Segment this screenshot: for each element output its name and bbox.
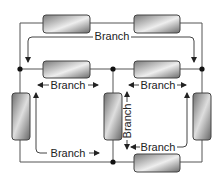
node-right (199, 66, 204, 71)
bottom-right-branch-annotation: Branch (131, 93, 187, 153)
top-branch-label: Branch (95, 30, 130, 42)
circuit-diagram: Branch Branch Branch Branch Branch Branc… (0, 0, 220, 180)
resistor-center-vertical (104, 93, 122, 140)
resistor-right-vertical (193, 93, 211, 140)
resistor-mid-right (134, 61, 180, 78)
resistor-left-vertical (12, 93, 30, 140)
bottom-right-branch-label: Branch (141, 141, 176, 153)
vertical-center-branch-label: Branch (121, 104, 133, 139)
resistor-mid-left (43, 61, 90, 78)
resistor-bottom (134, 154, 180, 172)
resistor-top-right (134, 15, 180, 33)
top-branch-annotation: Branch (28, 30, 194, 62)
middle-right-branch-label: Branch (141, 79, 176, 91)
node-center (110, 66, 115, 71)
middle-left-branch-label: Branch (51, 79, 86, 91)
middle-left-branch-annotation: Branch (38, 79, 98, 91)
middle-right-branch-annotation: Branch (129, 79, 186, 91)
bottom-left-branch-annotation: Branch (36, 93, 99, 159)
node-bottom-center (110, 159, 115, 164)
resistor-top-left (43, 15, 90, 33)
bottom-left-branch-label: Branch (51, 147, 86, 159)
node-left (17, 66, 22, 71)
vertical-center-branch-annotation: Branch (121, 92, 133, 149)
